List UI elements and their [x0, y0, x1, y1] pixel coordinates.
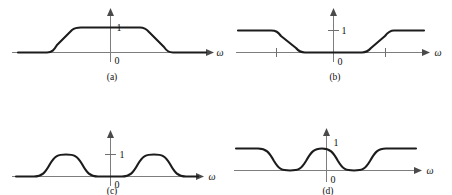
axis-label-one-c: 1 [120, 149, 125, 160]
plot-svg-a: 1 0 ω (a) [0, 0, 226, 97]
plot-panel-d: 1 0 ω (d) [226, 98, 452, 195]
x-axis-arrow-a [206, 49, 214, 56]
y-axis-arrow-b [330, 8, 337, 16]
axis-label-omega-c: ω [208, 171, 215, 182]
panel-caption-c: (c) [107, 186, 118, 195]
plot-panel-c: 1 0 ω (c) [0, 98, 226, 195]
axis-label-zero-b: 0 [338, 56, 343, 67]
axis-label-zero-d: 0 [331, 174, 336, 185]
response-curve-c [16, 155, 198, 177]
plot-panel-b: 1 0 ω (b) [226, 0, 452, 97]
axis-label-omega-a: ω [216, 47, 223, 58]
plot-panel-a: 1 0 ω (a) [0, 0, 226, 97]
axis-label-one-a: 1 [117, 22, 122, 33]
y-axis-arrow-d [323, 128, 330, 136]
response-curve-a [18, 28, 206, 53]
panel-caption-b: (b) [329, 72, 340, 83]
axis-label-omega-d: ω [426, 165, 433, 176]
y-axis-arrow-c [107, 130, 114, 138]
plot-svg-d: 1 0 ω (d) [226, 98, 452, 195]
axis-label-one-d: 1 [334, 137, 339, 148]
axis-label-one-b: 1 [342, 25, 347, 36]
panel-caption-a: (a) [107, 72, 118, 83]
y-axis-arrow-a [107, 8, 114, 16]
plot-svg-b: 1 0 ω (b) [226, 0, 452, 97]
panel-caption-d: (d) [322, 186, 333, 195]
x-axis-arrow-b [422, 49, 430, 56]
plot-svg-c: 1 0 ω (c) [0, 98, 226, 195]
axis-label-omega-b: ω [434, 47, 441, 58]
axis-label-zero-a: 0 [115, 55, 120, 66]
frequency-response-figure: 1 0 ω (a) 1 0 ω (b) [0, 0, 452, 195]
x-axis-arrow-d [414, 167, 422, 174]
response-curve-b [238, 31, 424, 53]
